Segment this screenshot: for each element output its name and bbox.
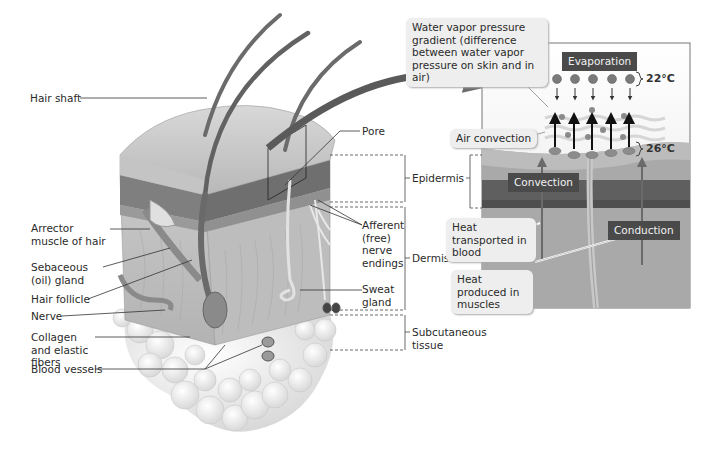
temp-skin: 26°C bbox=[646, 142, 675, 155]
temp-air: 22°C bbox=[646, 72, 675, 85]
callout-heat-transported-blood: Heat transported in blood bbox=[446, 218, 536, 262]
label-hair-shaft: Hair shaft bbox=[30, 92, 81, 105]
label-sebaceous-gland: Sebaceous (oil) gland bbox=[31, 261, 109, 286]
label-hair-follicle: Hair follicle bbox=[31, 293, 90, 306]
label-pore: Pore bbox=[362, 125, 385, 138]
label-nerve: Nerve bbox=[31, 310, 62, 323]
tag-convection: Convection bbox=[508, 173, 579, 192]
label-epidermis: Epidermis bbox=[412, 172, 464, 185]
tag-conduction: Conduction bbox=[608, 221, 680, 240]
label-afferent-nerve-endings: Afferent (free) nerve endings bbox=[362, 219, 406, 269]
callout-heat-produced-muscles: Heat produced in muscles bbox=[451, 270, 533, 314]
callout-air-convection: Air convection bbox=[450, 129, 537, 148]
label-dermis: Dermis bbox=[412, 252, 449, 265]
label-blood-vessels: Blood vessels bbox=[31, 363, 102, 376]
label-sweat-gland: Sweat gland bbox=[362, 283, 402, 308]
label-arrector-muscle: Arrector muscle of hair bbox=[31, 222, 111, 247]
tag-evaporation: Evaporation bbox=[562, 52, 637, 71]
label-subcutaneous-tissue: Subcutaneous tissue bbox=[412, 326, 492, 351]
callout-vapor-pressure-gradient: Water vapor pressure gradient (differenc… bbox=[406, 18, 548, 87]
